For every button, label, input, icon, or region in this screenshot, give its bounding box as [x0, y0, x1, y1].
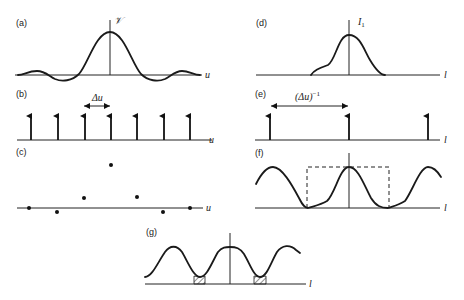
panel-b-label: (b) — [16, 89, 27, 99]
l-axis-label: l — [309, 278, 312, 289]
periodic-intensity-curve — [145, 246, 300, 277]
delta-u-label: Δu — [91, 92, 103, 103]
u-axis-label: u — [205, 69, 210, 80]
panel-f: (f) l — [255, 148, 447, 213]
panel-c-label: (c) — [16, 147, 27, 157]
intensity-curve — [311, 35, 385, 75]
delta-comb — [31, 116, 190, 140]
l-axis-label: l — [444, 202, 447, 213]
intensity-ordinate-label: I1 — [357, 16, 365, 29]
panel-d: (d) I1 l — [256, 16, 447, 80]
panel-c: (c) u — [16, 147, 211, 214]
panel-e-label: (e) — [255, 89, 266, 99]
panel-g-label: (g) — [146, 227, 157, 237]
panel-f-label: (f) — [255, 148, 264, 158]
panel-e: (e) (Δu)−1 l — [255, 89, 447, 145]
panel-b: (b) Δu u — [16, 89, 214, 145]
panel-g: (g) l — [145, 227, 312, 289]
window-box — [307, 167, 389, 208]
delta-comb — [270, 116, 428, 140]
l-axis-label: l — [444, 134, 447, 145]
u-axis-label: u — [209, 134, 214, 145]
visibility-ordinate-label: 𝒱 — [114, 15, 126, 26]
sampled-points — [27, 163, 192, 214]
visibility-curve — [18, 32, 200, 81]
panel-d-label: (d) — [256, 18, 267, 28]
l-axis-label: l — [444, 69, 447, 80]
figure-canvas: (a) 𝒱 u (d) I1 l (b) Δu u (e) — [0, 0, 464, 300]
panel-a: (a) 𝒱 u — [15, 15, 210, 81]
u-axis-label: u — [206, 202, 211, 213]
inverse-spacing-label: (Δu)−1 — [295, 90, 320, 103]
panel-a-label: (a) — [16, 18, 27, 28]
